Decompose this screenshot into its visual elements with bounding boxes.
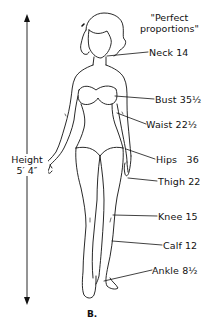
- height-label-text: Height: [6, 154, 48, 165]
- title-line-2: proportions": [140, 23, 199, 34]
- figure-caption: B.: [87, 309, 97, 319]
- bust-outline: [78, 86, 117, 104]
- measurement-neck: Neck 14: [149, 47, 188, 58]
- leader-lines: [104, 52, 162, 281]
- right-hand: [124, 156, 131, 176]
- title-line-1: "Perfect: [140, 12, 199, 23]
- height-value: 5′ 4″: [6, 165, 48, 176]
- figure-title: "Perfect proportions": [140, 12, 199, 34]
- hair-outline: [81, 13, 126, 56]
- measurement-bust: Bust 35½: [155, 94, 201, 105]
- measurement-calf: Calf 12: [163, 240, 197, 251]
- face-outline: [88, 30, 111, 58]
- measurement-hips: Hips 36: [156, 154, 199, 165]
- height-label: Height 5′ 4″: [6, 154, 48, 176]
- measurement-ankle: Ankle 8½: [152, 265, 198, 276]
- measurement-knee: Knee 15: [158, 211, 198, 222]
- measurement-waist: Waist 22½: [146, 119, 197, 130]
- measurement-thigh: Thigh 22: [158, 176, 200, 187]
